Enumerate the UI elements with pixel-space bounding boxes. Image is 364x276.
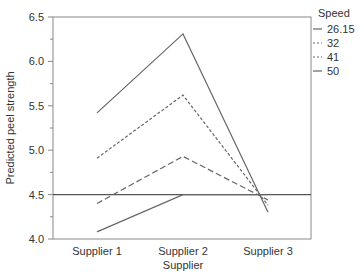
- x-axis-title: Supplier: [163, 259, 204, 271]
- x-tick-label: Supplier 1: [72, 245, 122, 257]
- y-tick-label: 6.5: [29, 11, 44, 23]
- series-line-32: [97, 95, 268, 205]
- x-tick-label: Supplier 2: [158, 245, 208, 257]
- y-tick-label: 5.0: [29, 144, 44, 156]
- series-line-41: [97, 156, 268, 203]
- legend-label: 32: [327, 37, 339, 49]
- legend-title: Speed: [318, 7, 350, 19]
- plot-frame: [53, 17, 311, 239]
- legend-label: 26.15: [327, 23, 355, 35]
- x-tick-label: Supplier 3: [243, 245, 293, 257]
- legend-label: 41: [327, 51, 339, 63]
- y-axis-title: Predicted peel strength: [4, 71, 16, 184]
- legend-label: 50: [327, 65, 339, 77]
- series-line-26-15: [97, 34, 268, 212]
- y-tick-label: 5.5: [29, 100, 44, 112]
- line-chart: 4.04.55.05.56.06.5Supplier 1Supplier 2Su…: [0, 0, 364, 276]
- y-tick-label: 6.0: [29, 55, 44, 67]
- y-tick-label: 4.0: [29, 233, 44, 245]
- y-tick-label: 4.5: [29, 189, 44, 201]
- series-line-50: [97, 195, 268, 232]
